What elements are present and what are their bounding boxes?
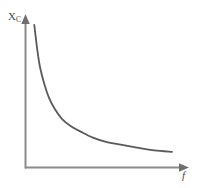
y-axis (21, 14, 29, 169)
x-axis (25, 163, 189, 172)
capacitive-reactance-vs-frequency-figure: XC f (0, 0, 204, 188)
y-axis-arrowhead-icon (21, 14, 29, 24)
plot-area (0, 0, 204, 188)
y-axis-label-subscript: C (16, 15, 21, 24)
y-axis-label: XC (8, 11, 21, 24)
x-axis-label: f (182, 170, 185, 181)
reactance-curve (34, 25, 172, 152)
y-axis-label-symbol: X (8, 10, 16, 22)
